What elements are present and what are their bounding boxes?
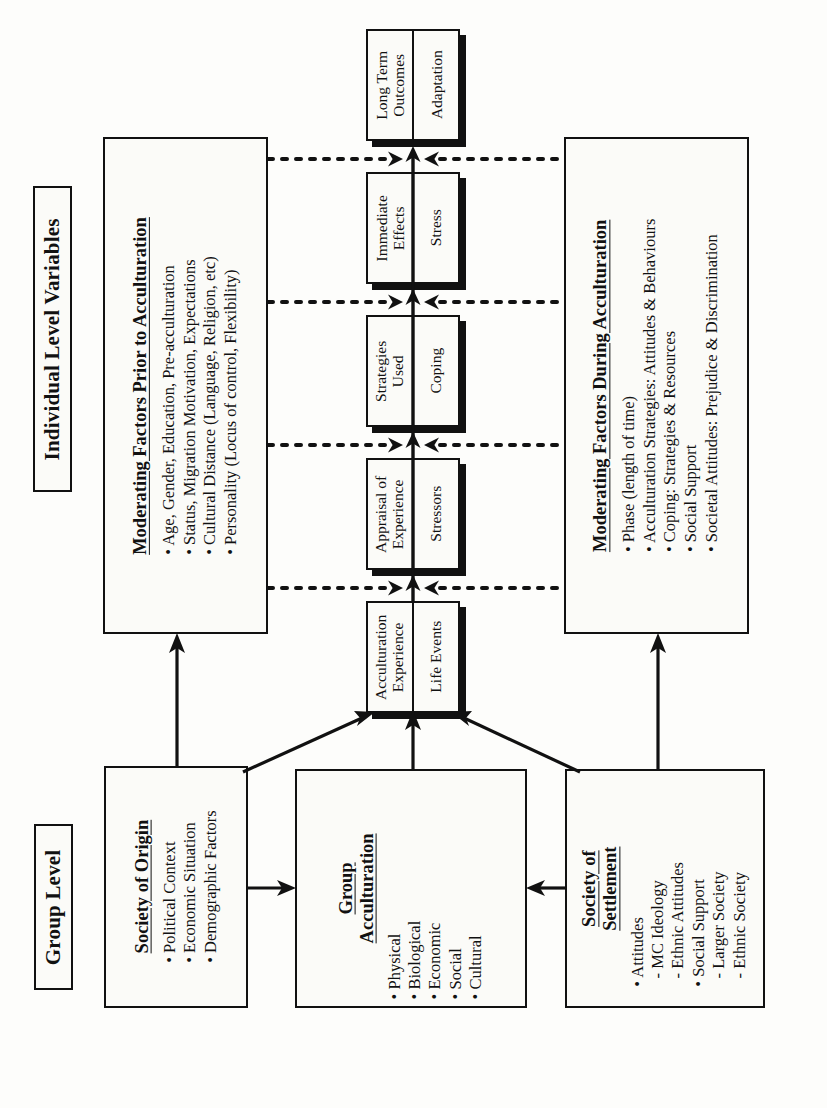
chain-cell-upper: Strategies Used [368,317,414,425]
chain-cell-upper: Immediate Effects [368,174,414,282]
chain-cell-upper-text: Strategies Used [373,340,408,401]
society-of-origin-title: Society of Origin [131,811,153,963]
society-of-origin-item: • Political Context [159,811,179,963]
moderating-prior-item: • Cultural Distance (Language, Religion,… [200,217,221,555]
moderating-during-list: • Phase (length of time) • Acculturation… [619,219,723,552]
group-acculturation-item: • Physical [384,777,404,999]
chain-box-long-term-outcomes: Long Term Outcomes Adaptation [366,29,460,141]
chain-box-strategies-used: Strategies Used Coping [366,315,460,427]
moderating-prior-list: • Age, Gender, Education, Pre-acculturat… [158,217,241,555]
chain-cell-upper-text: Long Term Outcomes [373,51,408,120]
chain-cell-lower-text: Adaptation [427,51,444,120]
society-of-settlement-list: • Attitudes - MC Ideology - Ethnic Attit… [628,791,751,987]
chain-cell-upper-text: Appraisal of Experience [373,475,408,552]
chain-cell-lower: Stress [414,174,458,282]
chain-cell-upper: Acculturation Experience [368,603,414,711]
label-individual-level-text: Individual Level Variables [40,218,65,460]
chain-cell-upper-text: Immediate Effects [373,195,408,261]
society-of-origin-item: • Demographic Factors [200,811,220,963]
society-of-origin-list: • Political Context • Economic Situation… [159,811,220,963]
moderating-prior-item: • Status, Migration Motivation, Expectat… [179,217,200,555]
society-of-settlement-item: - Ethnic Attitudes [669,791,689,987]
moderating-prior-title: Moderating Factors Prior to Acculturatio… [130,217,152,555]
arrows-into-acculturation-experience [243,710,580,772]
chain-cell-upper-text: Acculturation Experience [373,614,408,699]
chain-cell-lower: Stressors [414,460,458,568]
chain-cell-lower-text: Stress [427,209,444,246]
moderating-prior-item: • Age, Gender, Education, Pre-acculturat… [158,217,179,555]
group-acculturation-item: • Cultural [466,777,486,999]
label-individual-level: Individual Level Variables [33,186,72,492]
moderating-during-item: • Social Support [681,219,702,552]
chain-cell-upper: Appraisal of Experience [368,460,414,568]
chain-cell-lower-text: Life Events [427,621,444,693]
box-moderating-factors-prior: Moderating Factors Prior to Acculturatio… [103,137,268,634]
chain-cell-lower: Adaptation [414,31,458,139]
society-of-settlement-item: - Ethnic Society [730,791,750,987]
moderating-during-item: • Acculturation Strategies: Attitudes & … [640,219,661,552]
moderating-during-item: • Phase (length of time) [619,219,640,552]
arrow-origin-to-moderating-prior [169,633,185,766]
society-of-settlement-item: - MC Ideology [648,791,668,987]
chain-box-immediate-effects: Immediate Effects Stress [366,172,460,284]
arrow-settlement-to-moderating-during [650,633,666,769]
group-acculturation-list: • Physical • Biological • Economic • Soc… [384,777,486,999]
society-of-origin-item: • Economic Situation [180,811,200,963]
arrow-settlement-to-group-acculturation [526,880,565,896]
chain-cell-lower-text: Stressors [427,486,444,542]
label-group-level: Group Level [34,824,73,990]
diagram-canvas: Individual Level Variables Group Level M… [0,0,827,1108]
group-acculturation-item: • Biological [405,777,425,999]
society-of-settlement-item: • Attitudes [628,791,648,987]
moderating-during-item: • Societal Attitudes: Prejudice & Discri… [702,219,723,552]
society-of-settlement-item: - Larger Society [710,791,730,987]
moderating-during-item: • Coping: Strategies & Resources [661,219,682,552]
moderating-prior-item: • Personality (Locus of control, Flexibi… [221,217,242,555]
society-of-settlement-item: • Social Support [689,791,709,987]
label-group-level-text: Group Level [41,849,66,965]
chain-cell-upper: Long Term Outcomes [368,31,414,139]
society-of-settlement-title: Society of Settlement [579,791,622,987]
group-acculturation-item: • Social [445,777,465,999]
group-acculturation-item: • Economic [425,777,445,999]
chain-box-acculturation-experience: Acculturation Experience Life Events [366,601,460,713]
box-group-acculturation: Group Acculturation • Physical • Biologi… [295,769,527,1008]
chain-cell-lower-text: Coping [427,348,444,394]
chain-cell-lower: Life Events [414,603,458,711]
moderating-during-title: Moderating Factors During Acculturation [590,219,612,552]
arrow-origin-to-group-acculturation [248,880,296,896]
box-society-of-settlement: Society of Settlement • Attitudes - MC I… [565,769,765,1008]
chain-box-appraisal-of-experience: Appraisal of Experience Stressors [366,458,460,570]
box-moderating-factors-during: Moderating Factors During Acculturation … [564,137,749,634]
group-acculturation-title: Group Acculturation [336,777,379,999]
chain-cell-lower: Coping [414,317,458,425]
box-society-of-origin: Society of Origin • Political Context • … [104,766,248,1008]
